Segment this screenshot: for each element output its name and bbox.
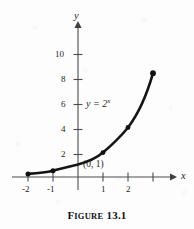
origin-point-annotation: (0, 1) xyxy=(83,160,104,170)
y-tick-label-4: 4 xyxy=(61,125,66,134)
caption-number: 13.1 xyxy=(107,209,127,221)
data-point-neg2 xyxy=(26,171,31,176)
y-axis-arrowhead xyxy=(74,21,81,28)
caption-word-rest: IGURE xyxy=(74,211,103,221)
figure-caption: FIGURE13.1 xyxy=(0,205,194,223)
data-point-1 xyxy=(101,150,106,155)
y-tick-label-10: 10 xyxy=(55,50,64,59)
x-tick-label-neg1: -1 xyxy=(47,185,55,194)
data-point-neg1 xyxy=(51,168,56,173)
y-axis-label: y xyxy=(74,11,79,22)
exponential-curve-plot xyxy=(0,0,194,229)
x-axis-label: x xyxy=(181,171,186,182)
y-tick-label-8: 8 xyxy=(61,75,66,84)
x-axis-arrowhead xyxy=(170,173,177,180)
curve-equation-label: y = 2x xyxy=(86,98,110,109)
y-tick-label-6: 6 xyxy=(61,100,66,109)
curve-equation-base: y = 2 xyxy=(86,98,107,109)
figure-container: 10 8 6 4 2 -2 -1 1 2 y x y = 2x (0, 1) F… xyxy=(0,0,194,229)
data-point-2 xyxy=(126,125,131,130)
x-tick-label-1: 1 xyxy=(101,185,106,194)
data-point-3 xyxy=(150,70,156,76)
x-tick-label-neg2: -2 xyxy=(22,185,30,194)
y-tick-label-2: 2 xyxy=(61,150,66,159)
x-tick-label-2: 2 xyxy=(126,185,131,194)
curve-equation-exponent: x xyxy=(107,97,110,105)
